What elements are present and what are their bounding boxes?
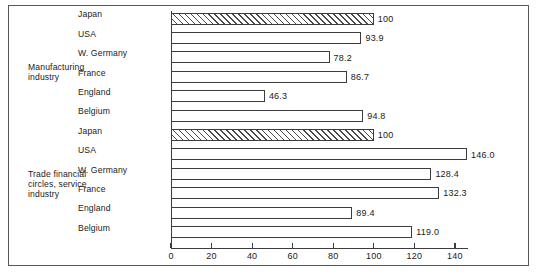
- bar-manufacturing-england: [171, 90, 265, 102]
- x-tick-label-40: 40: [247, 251, 257, 261]
- bar-value-trade-w-germany: 128.4: [435, 169, 459, 179]
- x-tick-140: [454, 243, 455, 248]
- bar-value-manufacturing-usa: 93.9: [365, 33, 383, 43]
- bar-value-trade-japan: 100: [378, 130, 394, 140]
- bar-manufacturing-belgium: [171, 110, 363, 122]
- bar-trade-w-germany: [171, 168, 431, 180]
- x-tick-label-120: 120: [407, 251, 423, 261]
- bar-value-manufacturing-japan: 100: [378, 14, 394, 24]
- bar-manufacturing-france: [171, 71, 347, 83]
- chart-figure: Manufacturing industry Trade financial c…: [0, 0, 539, 275]
- x-tick-0: [170, 243, 171, 248]
- x-tick-20: [211, 243, 212, 248]
- x-tick-label-60: 60: [287, 251, 297, 261]
- x-tick-label-100: 100: [366, 251, 382, 261]
- bar-trade-belgium: [171, 226, 412, 238]
- bar-trade-france: [171, 187, 439, 199]
- bar-manufacturing-usa: [171, 32, 361, 44]
- bar-trade-usa: [171, 148, 467, 160]
- x-tick-label-140: 140: [447, 251, 463, 261]
- x-tick-label-0: 0: [168, 251, 173, 261]
- bar-value-manufacturing-france: 86.7: [351, 72, 369, 82]
- bar-trade-england: [171, 207, 352, 219]
- x-tick-80: [333, 243, 334, 248]
- x-tick-100: [373, 243, 374, 248]
- x-tick-40: [252, 243, 253, 248]
- bar-value-manufacturing-england: 46.3: [269, 91, 287, 101]
- bar-trade-japan: [171, 129, 374, 141]
- bar-value-trade-belgium: 119.0: [416, 227, 439, 237]
- bar-manufacturing-japan: [171, 13, 374, 25]
- bar-value-trade-usa: 146.0: [471, 150, 495, 160]
- x-axis-line: [171, 248, 468, 249]
- bar-value-trade-france: 132.3: [443, 188, 467, 198]
- bar-value-manufacturing-w-germany: 78.2: [334, 53, 352, 63]
- bar-value-trade-england: 89.4: [356, 208, 374, 218]
- bar-manufacturing-w-germany: [171, 51, 330, 63]
- x-tick-60: [292, 243, 293, 248]
- x-tick-120: [414, 243, 415, 248]
- bar-value-manufacturing-belgium: 94.8: [367, 111, 385, 121]
- x-tick-label-20: 20: [206, 251, 216, 261]
- x-tick-label-80: 80: [328, 251, 338, 261]
- plot-area: 020406080100120140 10093.978.286.746.394…: [0, 0, 539, 275]
